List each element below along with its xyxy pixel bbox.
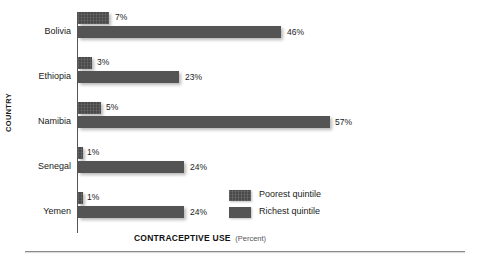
bar-value-yemen-richest: 24%	[190, 207, 207, 217]
bar-value-senegal-poorest: 1%	[87, 147, 99, 157]
bar-senegal-richest	[78, 161, 184, 173]
category-label-bolivia: Bolivia	[0, 26, 71, 36]
legend-swatch-poorest-icon	[229, 190, 251, 201]
bottom-divider	[25, 251, 465, 252]
bar-namibia-richest	[78, 116, 330, 128]
bar-value-ethiopia-poorest: 3%	[97, 57, 109, 67]
bar-bolivia-richest	[78, 26, 281, 38]
legend-label-richest: Richest quintile	[259, 206, 320, 216]
bar-value-bolivia-poorest: 7%	[115, 12, 127, 22]
bar-value-bolivia-richest: 46%	[287, 27, 304, 37]
bar-value-senegal-richest: 24%	[190, 162, 207, 172]
bar-value-namibia-poorest: 5%	[106, 102, 118, 112]
bar-group-senegal: Senegal 1% 24%	[0, 147, 493, 191]
chart-legend: Poorest quintile Richest quintile	[229, 188, 379, 222]
category-label-senegal: Senegal	[0, 161, 71, 171]
category-label-ethiopia: Ethiopia	[0, 71, 71, 81]
bar-yemen-poorest	[78, 192, 83, 204]
bar-value-yemen-poorest: 1%	[87, 192, 99, 202]
x-axis-title-main: CONTRACEPTIVE USE	[134, 233, 231, 243]
legend-item-richest: Richest quintile	[229, 205, 379, 222]
bar-namibia-poorest	[78, 102, 101, 114]
bar-group-bolivia: Bolivia 7% 46%	[0, 12, 493, 56]
bar-ethiopia-richest	[78, 71, 179, 83]
bar-group-namibia: Namibia 5% 57%	[0, 102, 493, 146]
bar-senegal-poorest	[78, 147, 83, 159]
category-label-namibia: Namibia	[0, 116, 71, 126]
bar-value-namibia-richest: 57%	[335, 117, 352, 127]
bar-yemen-richest	[78, 206, 184, 218]
x-axis-title-unit: (Percent)	[235, 234, 266, 243]
legend-swatch-richest-icon	[229, 207, 251, 218]
x-axis-title: CONTRACEPTIVE USE (Percent)	[0, 227, 400, 245]
bar-bolivia-poorest	[78, 12, 109, 24]
bar-ethiopia-poorest	[78, 57, 92, 69]
legend-item-poorest: Poorest quintile	[229, 188, 379, 205]
legend-label-poorest: Poorest quintile	[259, 189, 321, 199]
bar-group-ethiopia: Ethiopia 3% 23%	[0, 57, 493, 101]
bar-value-ethiopia-richest: 23%	[185, 72, 202, 82]
contraceptive-use-bar-chart: COUNTRY Bolivia 7% 46% Ethiopia 3% 23% N…	[0, 0, 493, 265]
category-label-yemen: Yemen	[0, 206, 71, 216]
